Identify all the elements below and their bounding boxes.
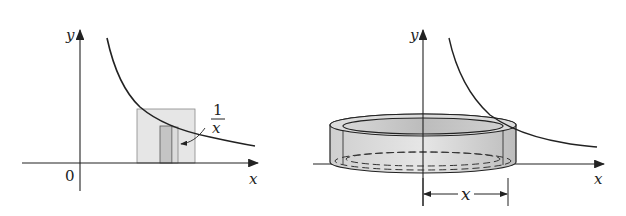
- radius-label: x: [461, 184, 471, 204]
- left-graph: y x 0 1 x: [22, 26, 258, 191]
- fraction-numerator: 1: [213, 101, 223, 119]
- right-graph: y x x: [313, 26, 604, 206]
- approx-strip-dark: [160, 126, 172, 163]
- y-axis-label: y: [65, 26, 75, 44]
- x-axis-label: x: [594, 170, 603, 188]
- y-axis-label: y: [409, 26, 419, 44]
- approx-strip-light: [172, 127, 178, 163]
- diagram-canvas: y x 0 1 x y x x: [0, 0, 626, 216]
- fraction-denominator: x: [212, 119, 221, 137]
- origin-label: 0: [65, 167, 75, 185]
- curve-1-over-x: [107, 38, 255, 146]
- x-axis-label: x: [249, 170, 258, 188]
